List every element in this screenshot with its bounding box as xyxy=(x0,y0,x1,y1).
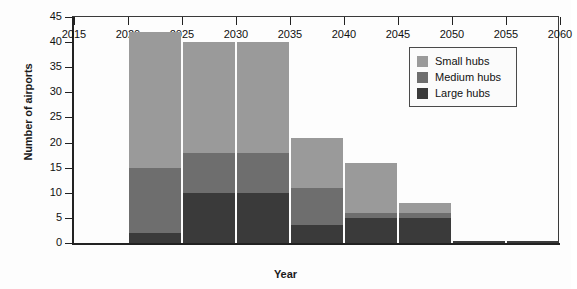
bar-segment-medium-hubs xyxy=(129,168,181,233)
y-tick-mark xyxy=(65,42,74,43)
legend-label: Small hubs xyxy=(435,55,489,67)
legend-swatch-icon xyxy=(417,72,428,83)
y-tick-label: 5 xyxy=(32,211,62,223)
bar-segment-small-hubs xyxy=(291,138,343,188)
y-tick-mark xyxy=(65,67,74,68)
bar-segment-medium-hubs xyxy=(183,153,235,193)
bar-segment-large-hubs xyxy=(291,225,343,243)
legend-swatch-icon xyxy=(417,88,428,99)
bar-segment-large-hubs xyxy=(237,193,289,243)
legend-swatch-icon xyxy=(417,56,428,67)
bar-2020 xyxy=(129,17,181,243)
y-tick-mark xyxy=(65,243,74,244)
legend-item: Small hubs xyxy=(417,53,510,69)
y-tick-mark xyxy=(65,193,74,194)
chart-legend: Small hubsMedium hubsLarge hubs xyxy=(409,47,517,107)
bar-segment-large-hubs xyxy=(507,241,559,244)
bar-segment-large-hubs xyxy=(129,233,181,243)
y-tick-mark xyxy=(65,117,74,118)
bar-2035 xyxy=(291,17,343,243)
legend-item: Large hubs xyxy=(417,85,510,101)
y-tick-label: 25 xyxy=(32,110,62,122)
y-tick-mark xyxy=(65,92,74,93)
y-tick-label: 30 xyxy=(32,85,62,97)
bar-2030 xyxy=(237,17,289,243)
bar-segment-large-hubs xyxy=(399,218,451,243)
y-tick-label: 45 xyxy=(32,10,62,22)
y-tick-label: 20 xyxy=(32,136,62,148)
x-axis-title: Year xyxy=(0,268,571,280)
bar-segment-medium-hubs xyxy=(237,153,289,193)
bar-segment-small-hubs xyxy=(183,42,235,152)
legend-label: Medium hubs xyxy=(435,71,501,83)
bar-segment-medium-hubs xyxy=(399,213,451,218)
bar-2040 xyxy=(345,17,397,243)
bar-segment-small-hubs xyxy=(129,32,181,168)
y-tick-mark xyxy=(65,17,74,18)
y-tick-label: 15 xyxy=(32,161,62,173)
legend-item: Medium hubs xyxy=(417,69,510,85)
y-tick-mark xyxy=(65,168,74,169)
y-tick-label: 0 xyxy=(32,236,62,248)
y-tick-mark xyxy=(65,143,74,144)
bar-segment-large-hubs xyxy=(345,218,397,243)
bar-segment-small-hubs xyxy=(237,42,289,152)
bar-segment-large-hubs xyxy=(453,241,505,244)
x-tick-mark xyxy=(74,17,75,25)
legend-label: Large hubs xyxy=(435,87,490,99)
x-tick-label: 2015 xyxy=(52,28,96,40)
y-tick-mark xyxy=(65,218,74,219)
bar-segment-large-hubs xyxy=(183,193,235,243)
y-tick-label: 35 xyxy=(32,60,62,72)
x-tick-mark xyxy=(560,17,561,25)
bar-segment-medium-hubs xyxy=(345,213,397,218)
bar-segment-small-hubs xyxy=(399,203,451,213)
bar-segment-medium-hubs xyxy=(291,188,343,226)
bar-segment-small-hubs xyxy=(345,163,397,213)
y-tick-label: 10 xyxy=(32,186,62,198)
bar-2025 xyxy=(183,17,235,243)
